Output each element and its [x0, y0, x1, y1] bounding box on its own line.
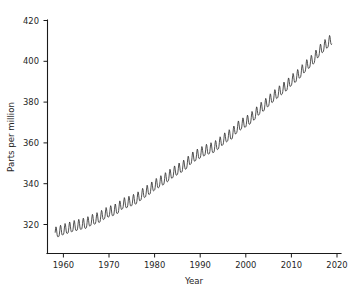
- x-tick-label-2: 1980: [144, 260, 165, 270]
- y-tick-label-5: 420: [23, 16, 39, 26]
- x-tick-label-6: 2020: [326, 260, 347, 270]
- x-tick-label-1: 1970: [98, 260, 119, 270]
- y-tick-label-2: 360: [23, 138, 39, 148]
- x-axis-title: Year: [184, 276, 204, 286]
- y-axis-tick-labels: 420 400 380 360 340 320: [23, 16, 39, 230]
- x-axis-ticks: [63, 254, 337, 258]
- chart-figure: 420 400 380 360 340 320 1960 1970 1980 1…: [0, 0, 363, 297]
- x-tick-label-5: 2010: [281, 260, 302, 270]
- y-tick-label-0: 320: [23, 220, 39, 230]
- x-tick-label-4: 2000: [235, 260, 256, 270]
- y-tick-label-3: 380: [23, 97, 39, 107]
- y-axis-ticks: [44, 21, 48, 225]
- x-tick-label-0: 1960: [53, 260, 74, 270]
- x-tick-label-3: 1990: [190, 260, 211, 270]
- co2-data-line: [55, 35, 332, 236]
- y-tick-label-1: 340: [23, 179, 39, 189]
- y-axis-title: Parts per million: [6, 102, 16, 172]
- x-axis-tick-labels: 1960 1970 1980 1990 2000 2010 2020: [53, 260, 348, 270]
- keeling-curve-chart: 420 400 380 360 340 320 1960 1970 1980 1…: [0, 0, 363, 297]
- y-tick-label-4: 400: [23, 56, 39, 66]
